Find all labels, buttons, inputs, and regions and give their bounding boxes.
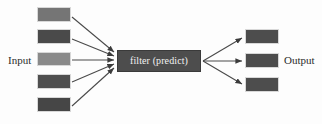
input-node-2[interactable] xyxy=(37,29,71,44)
output-node-1[interactable] xyxy=(245,29,279,44)
input-label: Input xyxy=(8,55,31,66)
input-node-5[interactable] xyxy=(37,97,71,112)
arrow-in-2 xyxy=(72,39,114,56)
output-arrow-group xyxy=(203,38,242,84)
arrow-out-1 xyxy=(203,38,242,61)
input-node-4[interactable] xyxy=(37,74,71,89)
filter-block[interactable]: filter (predict) xyxy=(117,50,201,72)
output-label: Output xyxy=(284,55,315,66)
input-node-1[interactable] xyxy=(37,7,71,22)
output-node-3[interactable] xyxy=(245,77,279,92)
input-node-3[interactable] xyxy=(37,52,71,66)
arrow-in-5 xyxy=(72,68,114,106)
filter-block-label: filter (predict) xyxy=(130,56,188,66)
input-arrow-group xyxy=(72,17,114,106)
output-node-2[interactable] xyxy=(245,53,279,68)
arrow-out-3 xyxy=(203,61,242,84)
diagram-canvas: filter (predict) Input Output xyxy=(0,0,322,124)
arrow-in-1 xyxy=(72,17,114,52)
